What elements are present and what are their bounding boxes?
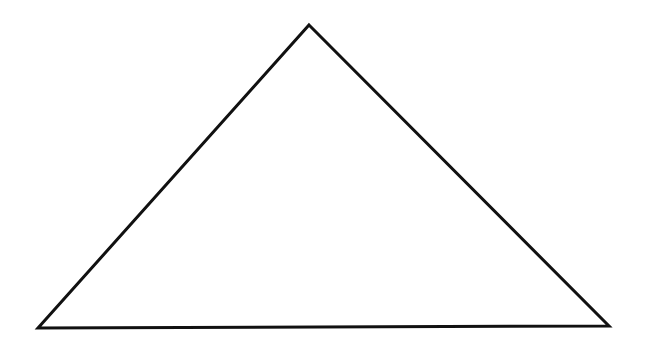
triangle-shape	[38, 25, 609, 328]
diagram-canvas	[0, 0, 647, 341]
